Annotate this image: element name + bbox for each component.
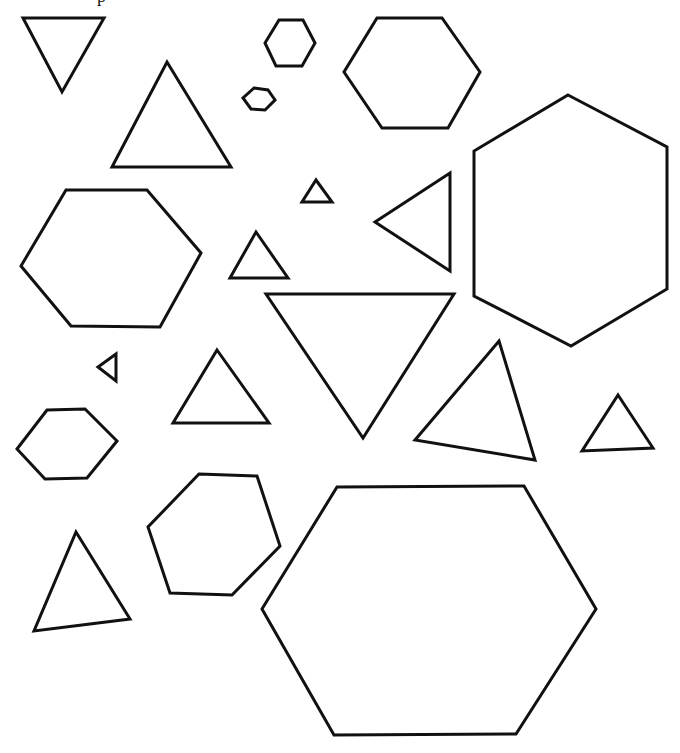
triangle-small-right [582, 395, 653, 451]
hexagon-large-right [474, 95, 667, 346]
triangle-tiny-left [98, 354, 116, 381]
hexagon-small-left [17, 409, 117, 479]
hexagon-tiny [243, 88, 275, 110]
hexagon-large-bottom [262, 486, 596, 735]
triangle-left-pointing [375, 173, 450, 271]
triangle-bottom-left [34, 532, 130, 631]
hexagon-left-middle [21, 190, 201, 327]
triangle-large-upper [112, 62, 231, 167]
hexagon-medium-top [344, 18, 480, 128]
triangle-small-center [230, 232, 288, 278]
hexagon-rotated [148, 474, 280, 595]
triangle-inverted-center [266, 294, 454, 438]
triangle-medium-left [173, 350, 269, 423]
shapes-figure [0, 0, 680, 753]
triangle-rotated-right [415, 341, 535, 460]
triangle-tiny-center [302, 180, 332, 202]
triangle-inverted-top-left [23, 18, 104, 92]
hexagon-small-top [265, 20, 315, 66]
